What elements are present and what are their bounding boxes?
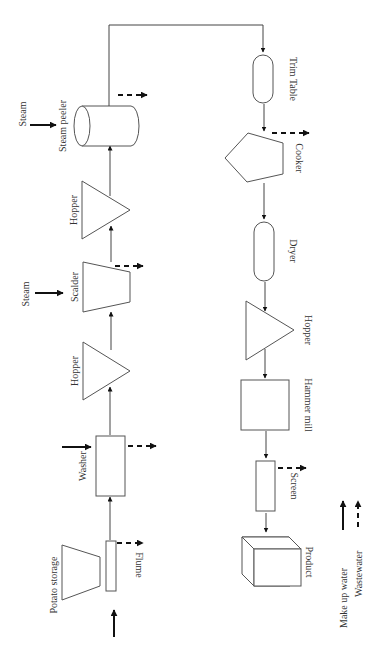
legend-wastewater-label: Wastewater	[353, 550, 364, 597]
legend-makeup-water-label: Make up water	[338, 567, 349, 628]
hopper-1-label: Hopper	[69, 355, 80, 386]
dryer-label: Dryer	[288, 239, 299, 263]
steam-label-scalder: Steam	[20, 281, 31, 306]
potato-storage-label: Potato storage	[48, 556, 59, 613]
trim-table-label: Trim Table	[288, 57, 299, 102]
hopper-3-label: Hopper	[303, 315, 314, 346]
washer-label: Washer	[77, 450, 88, 480]
steam-label-peeler: Steam	[17, 101, 28, 126]
scalder-label: Scalder	[69, 271, 80, 302]
trim-table-shape	[253, 55, 273, 103]
hammer-mill-shape	[241, 380, 289, 430]
screen-label: Screen	[289, 472, 300, 499]
hopper-2-label: Hopper	[68, 194, 79, 225]
screen-shape	[256, 461, 275, 511]
hopper-2-shape	[82, 181, 130, 239]
potato-storage-shape	[62, 545, 100, 600]
cooker-shape	[225, 133, 283, 182]
flow-peeler-trimtable	[109, 25, 263, 106]
flume-label: Flume	[134, 552, 145, 578]
process-flow-diagram: Potato storage Flume Washer Hopper Scald…	[0, 0, 375, 647]
product-shape	[242, 537, 301, 586]
hammer-mill-label: Hammer mill	[303, 378, 314, 432]
steam-peeler-label: Steam peeler	[57, 99, 68, 152]
legend: Make up water Wastewater	[338, 501, 364, 628]
cooker-label: Cooker	[294, 143, 305, 173]
washer-shape	[96, 436, 125, 496]
flume-shape	[106, 541, 116, 591]
steam-peeler-shape	[74, 106, 139, 146]
product-label: Product	[304, 546, 315, 577]
dryer-shape	[254, 222, 274, 281]
hopper-1-shape	[83, 342, 130, 400]
scalder-shape	[83, 262, 130, 312]
hopper-3-shape	[246, 301, 294, 360]
